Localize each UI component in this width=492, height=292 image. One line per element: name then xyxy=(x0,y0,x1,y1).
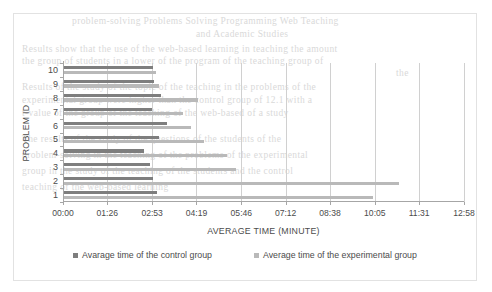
legend-item[interactable]: Avarage time of the control group xyxy=(73,250,212,260)
y-axis-tick-label: 8 xyxy=(53,93,58,103)
bar-row xyxy=(63,160,464,174)
y-axis-tick xyxy=(60,146,63,147)
y-axis-title: PROBLEM ID xyxy=(20,63,32,202)
gridline xyxy=(464,63,465,202)
legend-swatch-icon xyxy=(73,253,78,258)
x-axis-tick-label: 12:58 xyxy=(453,208,475,218)
x-axis-tick xyxy=(464,202,465,205)
chart-container: PROBLEM ID 10987654321 00:0001:2602:5304… xyxy=(13,13,477,281)
x-axis-tick-label: 02:53 xyxy=(141,208,163,218)
y-axis-tick xyxy=(60,119,63,120)
x-axis-tick xyxy=(419,202,420,205)
x-axis-tick-label: 05:46 xyxy=(231,208,253,218)
bar-control-group xyxy=(63,177,153,180)
bar-control-group xyxy=(63,66,153,69)
y-axis-tick-label: 1 xyxy=(53,190,58,200)
x-axis-tick xyxy=(196,202,197,205)
bar-experimental-group xyxy=(63,140,204,143)
x-axis-tick-label: 04:19 xyxy=(186,208,208,218)
bar-row xyxy=(63,188,464,202)
bar-experimental-group xyxy=(63,154,227,157)
bar-control-group xyxy=(63,94,161,97)
x-axis-tick xyxy=(152,202,153,205)
x-axis-tick xyxy=(286,202,287,205)
bar-control-group xyxy=(63,191,157,194)
bar-row xyxy=(63,133,464,147)
bar-control-group xyxy=(63,108,152,111)
bar-experimental-group xyxy=(63,182,399,185)
bar-row xyxy=(63,174,464,188)
y-axis-tick xyxy=(60,133,63,134)
plot-area: 10987654321 00:0001:2602:5304:1905:4607:… xyxy=(63,63,464,202)
bar-experimental-group xyxy=(63,196,373,199)
bar-control-group xyxy=(63,80,154,83)
y-axis-tick-label: 6 xyxy=(53,121,58,131)
legend-swatch-icon xyxy=(254,253,259,258)
y-axis-tick xyxy=(60,105,63,106)
y-axis-tick-label: 9 xyxy=(53,79,58,89)
bar-row xyxy=(63,77,464,91)
plot-area-wrapper: 10987654321 00:0001:2602:5304:1905:4607:… xyxy=(63,63,464,202)
bar-experimental-group xyxy=(63,168,236,171)
y-axis-tick xyxy=(60,188,63,189)
chart-legend: Avarage time of the control groupAverage… xyxy=(14,250,476,260)
x-axis-title: AVERAGE TIME (MINUTE) xyxy=(63,226,464,236)
bar-row xyxy=(63,146,464,160)
bar-experimental-group xyxy=(63,112,183,115)
y-axis-tick-label: 10 xyxy=(48,65,58,75)
bar-row xyxy=(63,105,464,119)
y-axis-tick-label: 4 xyxy=(53,148,58,158)
bar-experimental-group xyxy=(63,84,159,87)
y-axis-tick xyxy=(60,77,63,78)
y-axis-tick-label: 5 xyxy=(53,134,58,144)
bar-row xyxy=(63,91,464,105)
legend-item-label: Average time of the experimental group xyxy=(263,250,417,260)
x-axis-line xyxy=(63,201,464,202)
x-axis-tick xyxy=(330,202,331,205)
y-axis-tick xyxy=(60,160,63,161)
legend-item[interactable]: Average time of the experimental group xyxy=(254,250,417,260)
x-axis-tick xyxy=(241,202,242,205)
bar-control-group xyxy=(63,122,167,125)
y-axis-tick xyxy=(60,91,63,92)
bar-experimental-group xyxy=(63,71,156,74)
x-axis-tick xyxy=(63,202,64,205)
y-axis-tick-label: 3 xyxy=(53,162,58,172)
bar-row xyxy=(63,119,464,133)
x-axis-tick-label: 10:05 xyxy=(364,208,386,218)
y-axis-tick-label: 7 xyxy=(53,107,58,117)
bar-experimental-group xyxy=(63,98,198,101)
x-axis-tick-label: 11:31 xyxy=(409,208,430,218)
x-axis-tick xyxy=(375,202,376,205)
bar-control-group xyxy=(63,163,150,166)
y-axis-tick xyxy=(60,63,63,64)
y-axis-tick-label: 2 xyxy=(53,176,58,186)
legend-item-label: Avarage time of the control group xyxy=(82,250,212,260)
y-axis-tick xyxy=(60,174,63,175)
y-axis-line xyxy=(63,61,64,204)
x-axis-tick xyxy=(107,202,108,205)
y-axis-title-label: PROBLEM ID xyxy=(21,104,31,161)
x-axis-tick-label: 01:26 xyxy=(97,208,119,218)
x-axis-tick-label: 07:12 xyxy=(275,208,297,218)
x-axis-tick-label: 08:38 xyxy=(319,208,341,218)
bar-control-group xyxy=(63,149,144,152)
bar-row xyxy=(63,63,464,77)
bar-control-group xyxy=(63,136,159,139)
x-axis-tick-label: 00:00 xyxy=(52,208,74,218)
bar-experimental-group xyxy=(63,126,191,129)
